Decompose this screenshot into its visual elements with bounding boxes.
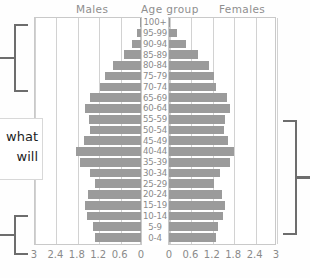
bracket-upper-left-stem bbox=[0, 57, 15, 60]
bar-males-70-74 bbox=[100, 83, 141, 92]
bar-females-25-29 bbox=[169, 179, 214, 188]
annotation-note: what will bbox=[0, 118, 43, 180]
bar-females-65-69 bbox=[169, 93, 227, 102]
bar-row bbox=[169, 222, 276, 231]
bar-males-85-89 bbox=[124, 50, 141, 59]
x-tick-0.6: 0.6 bbox=[112, 249, 128, 260]
bar-row bbox=[169, 61, 276, 70]
bar-row bbox=[34, 83, 141, 92]
bar-females-10-14 bbox=[169, 212, 223, 221]
bar-females-45-49 bbox=[169, 136, 228, 145]
age-group-label-85-89: 85-89 bbox=[142, 50, 168, 60]
bar-males-35-39 bbox=[80, 158, 141, 167]
x-tick-0: 0 bbox=[138, 249, 144, 260]
gridline bbox=[277, 18, 278, 244]
bar-row bbox=[169, 212, 276, 221]
bar-row bbox=[169, 136, 276, 145]
age-group-label-35-39: 35-39 bbox=[142, 157, 168, 167]
bar-females-80-84 bbox=[169, 61, 209, 70]
bar-males-80-84 bbox=[113, 61, 141, 70]
females-header-label: Females bbox=[219, 3, 265, 15]
bar-males-25-29 bbox=[95, 179, 141, 188]
age-group-label-20-24: 20-24 bbox=[142, 189, 168, 199]
x-tick-3: 3 bbox=[31, 249, 37, 260]
bar-females-20-24 bbox=[169, 190, 222, 199]
age-group-label-100+: 100+ bbox=[142, 17, 168, 27]
bar-females-60-64 bbox=[169, 104, 230, 113]
bar-row bbox=[34, 222, 141, 231]
x-tick-1.8: 1.8 bbox=[69, 249, 85, 260]
females-bar-group bbox=[169, 18, 276, 244]
bar-row bbox=[34, 93, 141, 102]
bar-row bbox=[169, 179, 276, 188]
bar-row bbox=[169, 104, 276, 113]
bar-row bbox=[34, 233, 141, 242]
x-tick-0.6: 0.6 bbox=[182, 249, 198, 260]
age-group-label-30-34: 30-34 bbox=[142, 168, 168, 178]
note-line-2: will bbox=[0, 147, 38, 167]
population-pyramid-chart: Males Age group Females 100+95-9990-9485… bbox=[0, 0, 310, 278]
x-tick-2.4: 2.4 bbox=[47, 249, 63, 260]
x-tick-2.4: 2.4 bbox=[247, 249, 263, 260]
bar-row bbox=[34, 169, 141, 178]
age-group-label-0-4: 0-4 bbox=[142, 233, 168, 243]
x-tick-1.8: 1.8 bbox=[225, 249, 241, 260]
age-group-label-45-49: 45-49 bbox=[142, 136, 168, 146]
bar-row bbox=[34, 18, 141, 27]
age-group-label-25-29: 25-29 bbox=[142, 179, 168, 189]
age-group-label-55-59: 55-59 bbox=[142, 114, 168, 124]
bracket-upper-left bbox=[14, 24, 28, 92]
bar-females-5-9 bbox=[169, 222, 218, 231]
bar-females-85-89 bbox=[169, 50, 198, 59]
bar-males-65-69 bbox=[90, 93, 141, 102]
bar-males-90-94 bbox=[132, 40, 141, 49]
age-group-label-50-54: 50-54 bbox=[142, 125, 168, 135]
age-group-header-label: Age group bbox=[141, 3, 199, 15]
x-tick-0: 0 bbox=[166, 249, 172, 260]
bar-males-15-19 bbox=[85, 201, 141, 210]
bar-row bbox=[169, 83, 276, 92]
bar-row bbox=[34, 212, 141, 221]
bar-females-0-4 bbox=[169, 233, 216, 242]
bar-row bbox=[34, 115, 141, 124]
bar-row bbox=[169, 233, 276, 242]
x-tick-1.2: 1.2 bbox=[204, 249, 220, 260]
bar-row bbox=[169, 29, 276, 38]
bar-row bbox=[34, 40, 141, 49]
bar-males-40-44 bbox=[76, 147, 141, 156]
bar-row bbox=[169, 93, 276, 102]
age-group-label-95-99: 95-99 bbox=[142, 28, 168, 38]
bar-row bbox=[169, 40, 276, 49]
age-group-label-10-14: 10-14 bbox=[142, 211, 168, 221]
age-group-label-15-19: 15-19 bbox=[142, 200, 168, 210]
bar-females-90-94 bbox=[169, 40, 186, 49]
bar-males-60-64 bbox=[85, 104, 141, 113]
males-bar-group bbox=[34, 18, 141, 244]
bar-row bbox=[34, 61, 141, 70]
bar-row bbox=[169, 190, 276, 199]
bracket-right-stem bbox=[295, 176, 310, 179]
bar-row bbox=[169, 158, 276, 167]
bar-males-5-9 bbox=[93, 222, 142, 231]
bar-row bbox=[169, 126, 276, 135]
bar-row bbox=[169, 115, 276, 124]
bar-row bbox=[34, 50, 141, 59]
age-group-label-75-79: 75-79 bbox=[142, 71, 168, 81]
bar-row bbox=[34, 104, 141, 113]
age-group-label-90-94: 90-94 bbox=[142, 39, 168, 49]
bar-males-55-59 bbox=[89, 115, 141, 124]
bar-row bbox=[34, 72, 141, 81]
x-tick-3: 3 bbox=[273, 249, 279, 260]
bar-males-10-14 bbox=[87, 212, 141, 221]
bar-females-55-59 bbox=[169, 115, 225, 124]
bar-row bbox=[169, 72, 276, 81]
bar-females-15-19 bbox=[169, 201, 225, 210]
age-group-label-70-74: 70-74 bbox=[142, 82, 168, 92]
note-line-1: what bbox=[0, 127, 38, 147]
age-group-label-5-9: 5-9 bbox=[142, 222, 168, 232]
bar-females-35-39 bbox=[169, 158, 230, 167]
bracket-lower-left bbox=[14, 215, 28, 255]
bar-row bbox=[34, 136, 141, 145]
bar-row bbox=[34, 147, 141, 156]
bar-row bbox=[34, 190, 141, 199]
